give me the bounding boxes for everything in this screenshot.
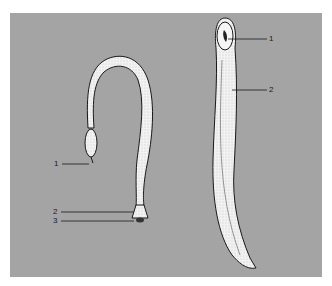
- left-label-1: 1: [54, 160, 58, 168]
- worm-illustration: [0, 0, 332, 286]
- left-label-3: 3: [53, 217, 57, 225]
- right-worm: [213, 18, 256, 268]
- right-label-1: 1: [269, 35, 273, 43]
- right-label-2: 2: [269, 86, 273, 94]
- left-label-2: 2: [53, 208, 57, 216]
- left-worm: [85, 56, 153, 222]
